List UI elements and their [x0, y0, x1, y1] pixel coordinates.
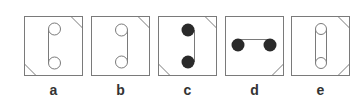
filled-circle-icon: [182, 56, 195, 69]
option-e-figure: [291, 16, 350, 76]
hollow-circle-icon: [49, 23, 61, 35]
option-c[interactable]: [158, 16, 217, 76]
hollow-circle-icon: [116, 56, 128, 68]
option-b-figure: [91, 16, 150, 76]
option-b-label: b: [91, 82, 150, 98]
option-a-label: a: [24, 82, 83, 98]
option-c-label: c: [158, 82, 217, 98]
option-d-label: d: [225, 82, 284, 98]
option-d-figure: [225, 16, 284, 76]
option-c-figure: [158, 16, 217, 76]
option-b[interactable]: [91, 16, 150, 76]
option-e-label: e: [291, 82, 350, 98]
option-a[interactable]: [24, 16, 83, 76]
hollow-circle-icon: [116, 24, 128, 36]
hollow-circle-icon: [316, 24, 327, 35]
option-e[interactable]: [291, 16, 350, 76]
filled-circle-icon: [232, 39, 245, 52]
filled-circle-icon: [264, 39, 277, 52]
hollow-circle-icon: [316, 58, 327, 69]
option-a-figure: [24, 16, 83, 76]
option-d[interactable]: [225, 16, 284, 76]
filled-circle-icon: [182, 24, 195, 37]
hollow-circle-icon: [49, 57, 61, 69]
